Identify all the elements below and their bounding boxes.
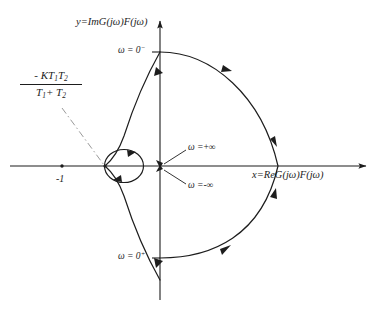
leader-dashdot-path bbox=[62, 108, 104, 165]
crossing-point-dot bbox=[103, 164, 106, 167]
omega-zero-plus-label: ω = 0+ bbox=[118, 251, 145, 261]
numerator-subscript-two: 2 bbox=[64, 74, 68, 83]
pointer-plus-infinity bbox=[164, 150, 186, 164]
plot-canvas bbox=[0, 0, 381, 319]
omega-minus-infinity-label: ω =-∞ bbox=[188, 181, 213, 191]
omega-minus-infinity-lhs: ω = bbox=[188, 180, 204, 190]
x-axis-label: x=ReG(jω)F(jω) bbox=[252, 170, 323, 181]
omega-zero-minus-superscript: − bbox=[141, 44, 146, 51]
pointer-minus-infinity bbox=[164, 170, 186, 184]
minus-one-label: -1 bbox=[56, 174, 64, 184]
axis-group bbox=[10, 21, 366, 300]
minus-one-tick-dot bbox=[60, 164, 63, 167]
crossing-point-leader-line bbox=[62, 108, 107, 168]
omega-plus-infinity-rhs: +∞ bbox=[204, 142, 216, 152]
omega-plus-infinity-label: ω =+∞ bbox=[188, 143, 215, 153]
omega-zero-minus-text: ω = 0 bbox=[118, 45, 141, 55]
omega-zero-ticks bbox=[152, 52, 160, 258]
arrowhead-outer-upper bbox=[221, 65, 232, 72]
arrowhead-inner-lower bbox=[154, 258, 163, 268]
crossing-point-denominator: T1+ T2 bbox=[20, 85, 82, 100]
numerator-prefix: - KT bbox=[34, 69, 54, 81]
omega-zero-minus-label: ω = 0− bbox=[118, 45, 145, 55]
denominator-plus: + T bbox=[46, 86, 62, 98]
crossing-point-numerator: - KT1T2 bbox=[20, 69, 82, 85]
inner-branch-upper-path bbox=[105, 52, 160, 166]
arrowhead-inner-upper bbox=[154, 67, 163, 76]
y-axis-label: y=ImG(jω)F(jω) bbox=[76, 17, 147, 28]
arrowhead-outer-lower bbox=[220, 245, 231, 255]
crossing-point-value-label: - KT1T2 T1+ T2 bbox=[20, 69, 82, 101]
denominator-subscript-two: 2 bbox=[62, 92, 66, 101]
omega-zero-plus-superscript: + bbox=[141, 250, 146, 257]
omega-plus-infinity-lhs: ω = bbox=[188, 142, 204, 152]
arrowhead-circle-top bbox=[127, 150, 136, 157]
omega-zero-plus-text: ω = 0 bbox=[118, 251, 141, 261]
inner-branch-lower-path bbox=[105, 166, 160, 280]
nyquist-plot-figure: y=ImG(jω)F(jω) x=ReG(jω)F(jω) -1 ω = 0− … bbox=[0, 0, 381, 319]
omega-minus-infinity-rhs: -∞ bbox=[204, 180, 214, 190]
